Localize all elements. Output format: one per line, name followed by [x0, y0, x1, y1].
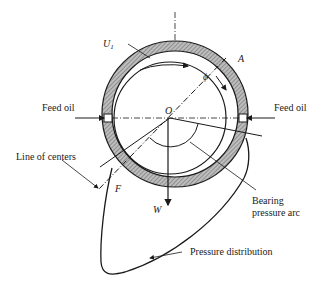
point-a-label: A	[237, 53, 245, 64]
pressure-distribution-label: Pressure distribution	[190, 246, 273, 257]
bearing-diagram: U1 A ϕ O Feed oil Feed oil Line of cente…	[0, 0, 321, 289]
velocity-label: U1	[103, 38, 114, 51]
load-w-label: W	[153, 204, 163, 215]
point-f-label: F	[114, 183, 122, 194]
line-of-centers-label: Line of centers	[16, 151, 76, 162]
bearing-arc-label-1: Bearing	[252, 195, 284, 206]
center-o-label: O	[165, 105, 172, 116]
feed-oil-right-label: Feed oil	[274, 102, 307, 113]
feed-oil-left-label: Feed oil	[42, 102, 75, 113]
feed-oil-port-right	[239, 114, 247, 122]
feed-oil-port-left	[104, 114, 112, 122]
line-of-centers-leader	[62, 160, 98, 188]
angle-phi-label: ϕ	[203, 71, 208, 82]
bearing-arc-label-2: pressure arc	[252, 207, 301, 218]
